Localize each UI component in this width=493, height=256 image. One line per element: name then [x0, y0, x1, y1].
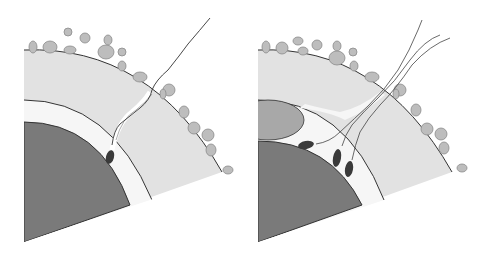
cumulus-cell	[223, 166, 233, 174]
cumulus-cell	[393, 89, 399, 99]
cumulus-cell	[293, 37, 303, 45]
cumulus-cell	[202, 129, 214, 141]
cumulus-cell	[349, 48, 357, 56]
cumulus-cell	[29, 41, 37, 53]
cumulus-cell	[179, 106, 189, 118]
cumulus-cell	[329, 51, 345, 65]
cumulus-cell	[80, 33, 90, 43]
cumulus-cell	[206, 144, 216, 156]
cumulus-cell	[276, 42, 288, 54]
cumulus-cell	[457, 164, 467, 172]
cumulus-cell	[118, 48, 126, 56]
cumulus-cell	[333, 41, 341, 51]
cumulus-cell	[421, 123, 433, 135]
cumulus-cell	[64, 28, 72, 36]
cumulus-cell	[98, 45, 114, 59]
cumulus-cell	[64, 46, 76, 54]
cumulus-cell	[118, 61, 126, 71]
cumulus-cell	[312, 40, 322, 50]
figure	[0, 0, 493, 256]
left-panel	[24, 50, 222, 242]
cumulus-cell	[160, 89, 166, 99]
cumulus-cell	[262, 41, 270, 53]
cumulus-cell	[435, 128, 447, 140]
cumulus-cell	[188, 122, 200, 134]
cumulus-cell	[350, 61, 358, 71]
cumulus-cell	[298, 47, 308, 55]
cumulus-cell	[133, 72, 147, 82]
polar-body	[232, 100, 304, 140]
cumulus-cell	[43, 41, 57, 53]
cumulus-cell	[411, 104, 421, 116]
cumulus-cell	[439, 142, 449, 154]
cumulus-cell	[365, 72, 379, 82]
diagram-canvas	[0, 0, 493, 256]
cumulus-cell	[104, 35, 112, 45]
